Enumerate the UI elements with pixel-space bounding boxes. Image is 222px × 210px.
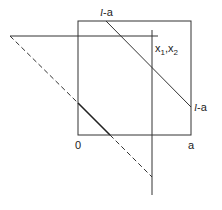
label-l-minus-a-right: l-a (194, 102, 207, 113)
label-l-minus-a-top: l-a (100, 7, 113, 18)
upper-diagonal (106, 21, 191, 107)
label-a: a (188, 140, 194, 151)
diagram-canvas (0, 0, 222, 210)
square-domain (78, 21, 191, 135)
label-x1-x2: x1,x2 (155, 43, 178, 57)
solid-diagonal-segment (78, 103, 110, 135)
dashed-diagonal-left (10, 36, 78, 103)
label-origin: 0 (75, 140, 81, 151)
dashed-diagonal-right (110, 135, 152, 177)
